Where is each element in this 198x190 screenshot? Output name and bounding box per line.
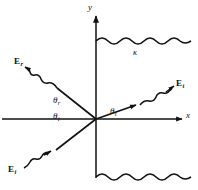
theta-incident-symbol: θ [53, 111, 57, 121]
physics-diagram-reflection-transmission: y x κ Er Ei Et θr θi θt [0, 0, 198, 190]
e-incident-symbol: E [8, 164, 14, 174]
e-transmitted-subscript: t [183, 82, 185, 89]
medium-boundary-bottom-wave [96, 174, 191, 180]
diagram-canvas [0, 0, 198, 190]
ray-reflected [25, 67, 96, 119]
theta-reflected-subscript: r [58, 99, 61, 106]
e-incident-subscript: i [15, 168, 17, 175]
e-transmitted-symbol: E [176, 78, 182, 88]
theta-reflected-label: θr [53, 96, 60, 107]
theta-transmitted-label: θt [110, 107, 117, 118]
theta-incident-subscript: i [58, 115, 60, 122]
x-axis-label: x [186, 111, 190, 120]
theta-transmitted-subscript: t [115, 110, 117, 117]
e-reflected-label: Er [14, 57, 23, 68]
e-incident-label: Ei [8, 165, 16, 176]
e-reflected-symbol: E [14, 56, 20, 66]
theta-incident-label: θi [53, 112, 60, 123]
theta-transmitted-symbol: θ [110, 106, 114, 116]
y-axis-label: y [88, 3, 92, 12]
ray-incident [24, 119, 96, 168]
medium-boundary-top-wave [96, 38, 191, 44]
ray-transmitted [96, 86, 174, 119]
kappa-medium-label: κ [133, 48, 137, 57]
e-transmitted-label: Et [176, 79, 184, 90]
theta-reflected-symbol: θ [53, 95, 57, 105]
e-reflected-subscript: r [21, 60, 24, 67]
